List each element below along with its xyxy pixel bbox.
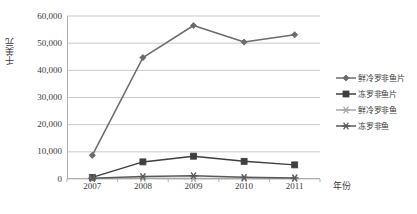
legend-label: 冻罗非鱼 (358, 122, 389, 131)
plot-svg (67, 16, 320, 179)
x-axis-tick-label: 2010 (221, 181, 267, 192)
x-axis-title: 年份 (333, 181, 351, 192)
y-axis-tick-labels: 010,00020,00030,00040,00050,00060,000 (16, 0, 62, 214)
y-axis-tick-label: 20,000 (16, 120, 62, 129)
legend-label: 冻罗非鱼片 (358, 90, 397, 99)
data-point-marker (292, 32, 298, 38)
y-axis-tick-label: 30,000 (16, 93, 62, 102)
plot-area (67, 16, 320, 179)
data-point-marker (241, 158, 247, 164)
series-line (92, 26, 294, 156)
legend-item[interactable]: 冻罗非鱼片 (336, 86, 417, 102)
y-axis-tick-label: 50,000 (16, 39, 62, 48)
legend-label: 鲜冷罗非鱼片 (358, 74, 405, 83)
legend-marker-diamond-icon (336, 72, 356, 84)
series-3 (89, 173, 298, 181)
data-point-marker (343, 75, 349, 81)
data-point-marker (191, 153, 197, 159)
legend-marker-asterisk-icon (336, 104, 356, 116)
data-point-marker (140, 159, 146, 165)
data-point-marker (343, 91, 349, 97)
x-axis-tick-label: 2007 (69, 181, 115, 192)
data-point-marker (89, 152, 95, 158)
data-point-marker (292, 162, 298, 168)
legend-item[interactable]: 鲜冷罗非鱼片 (336, 70, 417, 86)
legend-item[interactable]: 鲜冷罗非鱼 (336, 102, 417, 118)
x-axis-tick-label: 2009 (171, 181, 217, 192)
x-axis-tick-labels: 20072008200920102011 (67, 181, 320, 197)
y-axis-tick-label: 60,000 (16, 12, 62, 21)
data-point-marker (343, 123, 350, 129)
series-layer (89, 22, 298, 181)
x-axis-tick-label: 2008 (120, 181, 166, 192)
y-axis-tick-label: 40,000 (16, 66, 62, 75)
legend-label: 鲜冷罗非鱼 (358, 106, 397, 115)
legend-item[interactable]: 冻罗非鱼 (336, 118, 417, 134)
legend-marker-asterisk-icon (336, 120, 356, 132)
y-axis-tick-label: 10,000 (16, 147, 62, 156)
data-point-marker (343, 107, 350, 113)
data-point-marker (241, 39, 247, 45)
x-axis-tick-label: 2011 (272, 181, 318, 192)
tilapia-export-line-chart: 千美元 010,00020,00030,00040,00050,00060,00… (0, 0, 417, 214)
y-axis-tick-label: 0 (16, 175, 62, 184)
chart-legend: 鲜冷罗非鱼片冻罗非鱼片鲜冷罗非鱼冻罗非鱼 (336, 70, 417, 134)
legend-marker-square-icon (336, 88, 356, 100)
